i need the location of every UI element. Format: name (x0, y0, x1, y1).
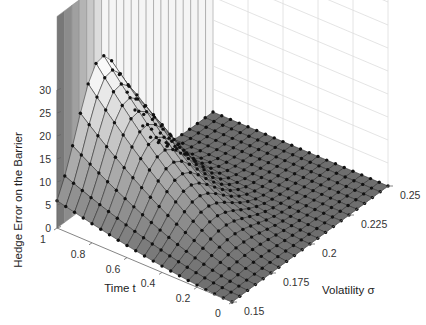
data-point (239, 131, 242, 134)
data-point (286, 187, 289, 190)
data-point (212, 281, 215, 284)
data-point (123, 197, 126, 200)
data-point (308, 151, 311, 154)
data-point (234, 164, 237, 167)
data-point (108, 233, 111, 236)
data-point (276, 174, 279, 177)
data-point (218, 245, 221, 248)
data-point (351, 169, 354, 172)
data-point (180, 160, 183, 163)
data-point (370, 186, 373, 189)
data-point (183, 210, 186, 213)
data-point (264, 132, 267, 135)
data-point (187, 279, 190, 282)
data-point (247, 207, 250, 210)
data-point (337, 191, 340, 194)
data-point (133, 108, 136, 111)
data-point (88, 162, 91, 165)
data-point (290, 144, 293, 147)
gridline (213, 43, 388, 117)
data-point (236, 273, 239, 276)
data-point (204, 126, 207, 129)
data-point (258, 231, 261, 234)
data-point (254, 197, 257, 200)
data-point (171, 148, 174, 151)
data-point (215, 201, 218, 204)
data-point (174, 200, 177, 203)
data-point (321, 202, 324, 205)
data-point (224, 152, 227, 155)
data-point (278, 193, 281, 196)
data-point (89, 196, 92, 199)
data-point (212, 180, 215, 183)
data-point (328, 187, 331, 190)
data-point (149, 135, 152, 138)
data-point (124, 223, 127, 226)
data-point (345, 194, 348, 197)
data-point (320, 193, 323, 196)
data-point (284, 168, 287, 171)
data-point (214, 139, 217, 142)
data-point (273, 136, 276, 139)
data-point (276, 255, 279, 258)
data-point (336, 181, 339, 184)
data-point (87, 123, 90, 126)
data-point (135, 93, 138, 96)
data-point (175, 222, 178, 225)
data-point (63, 174, 66, 177)
data-point (203, 172, 206, 175)
data-point (378, 181, 381, 184)
data-point (312, 198, 315, 201)
data-point (270, 197, 273, 200)
data-point (319, 183, 322, 186)
wall-strip (176, 0, 183, 140)
data-point (199, 149, 202, 152)
data-point (115, 189, 118, 192)
data-point (180, 133, 183, 136)
data-point (232, 219, 235, 222)
data-point (261, 185, 264, 188)
data-point (299, 228, 302, 231)
data-point (323, 221, 326, 224)
data-point (318, 174, 321, 177)
data-point (238, 121, 241, 124)
surface-plot: 05101520253000.20.40.60.810.150.1750.20.… (0, 0, 426, 325)
data-point (255, 129, 258, 132)
t-tick (54, 228, 57, 230)
data-point (87, 82, 90, 85)
data-point (105, 145, 108, 148)
data-point (196, 167, 199, 170)
z-tick-label: 5 (45, 199, 51, 211)
data-point (221, 286, 224, 289)
data-point (282, 149, 285, 152)
data-point (288, 206, 291, 209)
data-point (231, 209, 234, 212)
data-point (268, 170, 271, 173)
z-axis-label: Hedge Error on the Barrier (12, 132, 24, 268)
data-point (292, 244, 295, 247)
data-point (309, 160, 312, 163)
data-point (239, 140, 242, 143)
data-point (251, 172, 254, 175)
data-point (111, 68, 114, 71)
data-point (326, 168, 329, 171)
data-point (158, 228, 161, 231)
data-point (131, 176, 134, 179)
data-point (144, 104, 147, 107)
t-tick-label: 1 (40, 233, 46, 245)
data-point (237, 194, 240, 197)
data-point (203, 276, 206, 279)
data-point (205, 135, 208, 138)
data-point (227, 176, 230, 179)
t-tick (89, 243, 92, 245)
data-point (218, 171, 221, 174)
data-point (309, 170, 312, 173)
data-point (236, 188, 239, 191)
data-point (228, 280, 231, 283)
data-point (182, 149, 185, 152)
data-point (211, 110, 214, 113)
data-point (284, 249, 287, 252)
data-point (291, 234, 294, 237)
data-point (249, 224, 252, 227)
data-point (122, 166, 125, 169)
